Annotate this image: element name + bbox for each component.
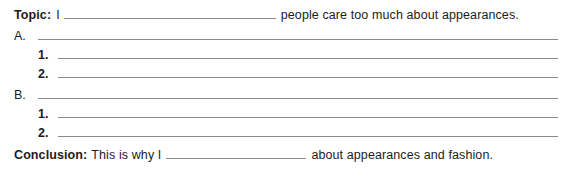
conclusion-label: Conclusion: bbox=[14, 146, 87, 165]
outline-subitem-a1: 1. bbox=[0, 46, 575, 65]
outline-blank-b1[interactable] bbox=[58, 105, 558, 118]
outline-subitem-a2: 2. bbox=[0, 65, 575, 84]
outline-subitem-b2: 2. bbox=[0, 124, 575, 143]
outline-item-a: A. bbox=[0, 27, 575, 46]
outline-marker-a2: 2. bbox=[38, 65, 58, 84]
outline-worksheet: Topic: I people care too much about appe… bbox=[0, 0, 575, 170]
topic-trailing-text: people care too much about appearances. bbox=[281, 6, 519, 25]
outline-marker-a: A. bbox=[14, 27, 38, 46]
conclusion-trailing-text: about appearances and fashion. bbox=[311, 146, 493, 165]
outline-marker-b1: 1. bbox=[38, 105, 58, 124]
outline-blank-a2[interactable] bbox=[58, 65, 558, 78]
conclusion-row: Conclusion: This is why I about appearan… bbox=[0, 146, 575, 165]
outline-subitem-b1: 1. bbox=[0, 105, 575, 124]
outline-marker-b2: 2. bbox=[38, 124, 58, 143]
outline-blank-a[interactable] bbox=[38, 27, 558, 40]
topic-lead-text: I bbox=[56, 6, 60, 25]
conclusion-lead-text: This is why I bbox=[91, 146, 161, 165]
conclusion-blank-field[interactable] bbox=[166, 146, 306, 159]
outline-marker-b: B. bbox=[14, 86, 38, 105]
outline-blank-a1[interactable] bbox=[58, 46, 558, 59]
topic-label: Topic: bbox=[14, 6, 51, 25]
outline-blank-b[interactable] bbox=[38, 86, 558, 99]
outline-marker-a1: 1. bbox=[38, 46, 58, 65]
topic-blank-field[interactable] bbox=[64, 6, 276, 19]
outline-blank-b2[interactable] bbox=[58, 124, 558, 137]
topic-row: Topic: I people care too much about appe… bbox=[0, 6, 575, 25]
outline-item-b: B. bbox=[0, 86, 575, 105]
